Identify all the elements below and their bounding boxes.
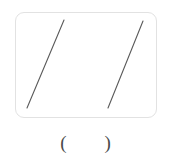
answer-blank-space[interactable]	[67, 142, 105, 143]
close-paren: )	[105, 133, 111, 152]
figure-frame-rounded-rectangle	[15, 12, 157, 118]
answer-blank[interactable]: ( )	[0, 129, 171, 155]
figure-root: ( )	[0, 0, 171, 166]
